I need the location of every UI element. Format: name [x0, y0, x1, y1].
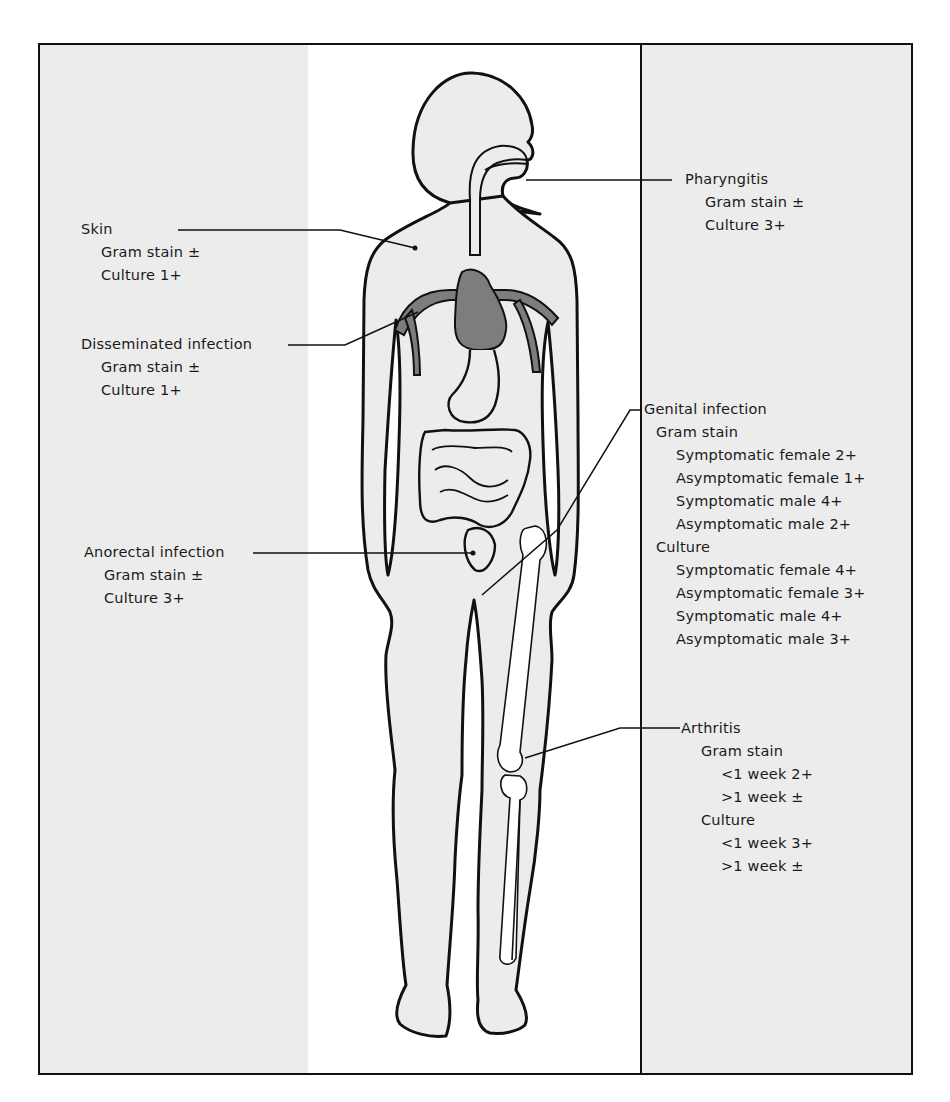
- arthritis-gram-stain-heading: Gram stain: [681, 740, 813, 763]
- arthritis-culture-heading: Culture: [681, 809, 813, 832]
- arthritis-title: Arthritis: [681, 717, 813, 740]
- label-disseminated-infection: Disseminated infection Gram stain ± Cult…: [81, 333, 252, 402]
- genital-culture-item: Symptomatic male 4+: [644, 605, 866, 628]
- genital-culture-item: Symptomatic female 4+: [644, 559, 866, 582]
- pharyngitis-title: Pharyngitis: [685, 168, 804, 191]
- arthritis-culture-item: <1 week 3+: [681, 832, 813, 855]
- anorectal-title: Anorectal infection: [84, 541, 225, 564]
- genital-title: Genital infection: [644, 398, 866, 421]
- genital-culture-item: Asymptomatic male 3+: [644, 628, 866, 651]
- label-arthritis: Arthritis Gram stain <1 week 2+ >1 week …: [681, 717, 813, 878]
- pharyngitis-gram-stain: Gram stain ±: [685, 191, 804, 214]
- genital-culture-heading: Culture: [644, 536, 866, 559]
- label-pharyngitis: Pharyngitis Gram stain ± Culture 3+: [685, 168, 804, 237]
- label-genital-infection: Genital infection Gram stain Symptomatic…: [644, 398, 866, 651]
- genital-gram-item: Symptomatic male 4+: [644, 490, 866, 513]
- center-figure-panel: [308, 45, 640, 1073]
- skin-gram-stain: Gram stain ±: [81, 241, 200, 264]
- genital-gram-stain-heading: Gram stain: [644, 421, 866, 444]
- label-skin: Skin Gram stain ± Culture 1+: [81, 218, 200, 287]
- anorectal-gram-stain: Gram stain ±: [84, 564, 225, 587]
- anorectal-culture: Culture 3+: [84, 587, 225, 610]
- arthritis-gram-item: >1 week ±: [681, 786, 813, 809]
- label-anorectal-infection: Anorectal infection Gram stain ± Culture…: [84, 541, 225, 610]
- pharyngitis-culture: Culture 3+: [685, 214, 804, 237]
- genital-gram-item: Symptomatic female 2+: [644, 444, 866, 467]
- arthritis-gram-item: <1 week 2+: [681, 763, 813, 786]
- disseminated-title: Disseminated infection: [81, 333, 252, 356]
- skin-culture: Culture 1+: [81, 264, 200, 287]
- skin-title: Skin: [81, 218, 200, 241]
- disseminated-culture: Culture 1+: [81, 379, 252, 402]
- arthritis-culture-item: >1 week ±: [681, 855, 813, 878]
- genital-culture-item: Asymptomatic female 3+: [644, 582, 866, 605]
- genital-gram-item: Asymptomatic female 1+: [644, 467, 866, 490]
- genital-gram-item: Asymptomatic male 2+: [644, 513, 866, 536]
- disseminated-gram-stain: Gram stain ±: [81, 356, 252, 379]
